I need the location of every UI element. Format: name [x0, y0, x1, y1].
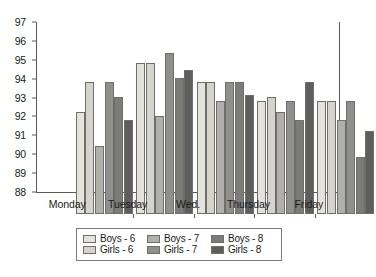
y-axis-tick-label: 97 [15, 16, 26, 28]
y-axis-tick-label: 95 [15, 54, 26, 66]
bar [365, 131, 374, 214]
bar [114, 97, 123, 214]
y-axis-tick-label: 92 [15, 110, 26, 122]
x-axis-tick-label: Tuesday [97, 198, 157, 210]
legend-item: Girls - 6 [83, 244, 147, 255]
legend-label: Girls - 6 [100, 244, 133, 255]
y-axis-tick-label: 89 [15, 167, 26, 179]
bar [356, 157, 365, 214]
x-axis-group-separator [315, 214, 316, 218]
y-axis: 97969594939291908988 [0, 22, 32, 193]
y-axis-tick-label: 96 [15, 35, 26, 47]
x-axis-group-separator [133, 214, 134, 218]
bar [267, 97, 276, 214]
x-axis-tick-label: Thursday [218, 198, 278, 210]
bar-group [255, 44, 315, 214]
legend-item: Boys - 6 [83, 233, 147, 244]
bar [216, 101, 225, 214]
legend-row: Boys - 6Boys - 7Boys - 8 [83, 233, 275, 244]
legend-swatch-icon [147, 246, 160, 254]
x-axis: MondayTuesdayWed.ThursdayFriday [37, 198, 339, 210]
bar-group [316, 44, 376, 214]
x-axis-tick-label: Friday [279, 198, 339, 210]
legend-swatch-icon [147, 235, 160, 243]
bar [235, 82, 244, 214]
bar [257, 101, 266, 214]
bar [136, 63, 145, 214]
legend-label: Girls - 7 [164, 244, 197, 255]
x-axis-tick-label: Wed. [158, 198, 218, 210]
legend-swatch-icon [83, 246, 96, 254]
bar [184, 70, 193, 214]
y-axis-tick-label: 93 [15, 92, 26, 104]
legend-item: Boys - 8 [211, 233, 275, 244]
y-axis-tick-label: 88 [15, 186, 26, 198]
bar-groups [74, 44, 376, 214]
legend-item: Boys - 7 [147, 233, 211, 244]
bar [206, 82, 215, 214]
bar [245, 95, 254, 214]
chart-legend: Boys - 6Boys - 7Boys - 8Girls - 6Girls -… [76, 228, 282, 261]
y-axis-tick-label: 94 [15, 73, 26, 85]
bar [225, 82, 234, 214]
legend-label: Boys - 7 [164, 233, 199, 244]
x-axis-group-separator [194, 214, 195, 218]
plot-area [36, 22, 340, 193]
legend-row: Girls - 6Girls - 7Girls - 8 [83, 244, 275, 255]
bar-group [134, 44, 194, 214]
bar [85, 82, 94, 214]
bar [197, 82, 206, 214]
bar [175, 78, 184, 214]
bar-group [74, 44, 134, 214]
bar [146, 63, 155, 214]
legend-label: Boys - 8 [228, 233, 263, 244]
bar [165, 53, 174, 215]
y-axis-tick-label: 90 [15, 148, 26, 160]
legend-item: Girls - 7 [147, 244, 211, 255]
bar [317, 101, 326, 214]
y-axis-tick-label: 91 [15, 129, 26, 141]
bar [346, 101, 355, 214]
legend-swatch-icon [211, 246, 224, 254]
bar [105, 82, 114, 214]
bar [327, 101, 336, 214]
legend-item: Girls - 8 [211, 244, 275, 255]
x-axis-tick-label: Monday [37, 198, 97, 210]
bar [286, 101, 295, 214]
bar [305, 82, 314, 214]
x-axis-group-separator [254, 214, 255, 218]
legend-label: Girls - 8 [228, 244, 261, 255]
bar-group [195, 44, 255, 214]
legend-swatch-icon [211, 235, 224, 243]
legend-label: Boys - 6 [100, 233, 135, 244]
legend-swatch-icon [83, 235, 96, 243]
